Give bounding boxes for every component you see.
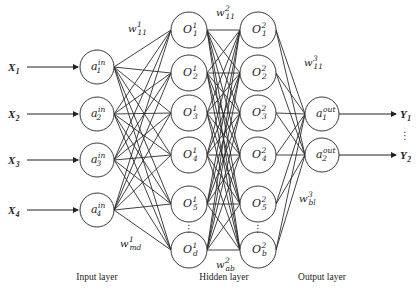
hidden-layer-title: Hidden layer <box>199 272 249 282</box>
neural-network-diagram: ain1ain2ain3ain4O11O12O13O14O15O1dO21O22… <box>0 0 420 293</box>
hidden2-node-o5-label: O25 <box>252 195 267 212</box>
weight-label-w1-11: w111 <box>128 20 147 37</box>
connection-line <box>114 67 171 113</box>
connection-line <box>114 73 171 160</box>
hidden2-node-o2-label: O22 <box>252 64 267 81</box>
weight-label-w2-ab: w2ab <box>216 256 235 273</box>
output-layer-title: Output layer <box>298 272 347 282</box>
input-label-x4: X4 <box>7 204 20 219</box>
hidden1-ellipsis: ⋮ <box>184 223 194 234</box>
weight-label-w3-bl: w3bl <box>299 190 316 207</box>
connections <box>114 30 305 250</box>
hidden1-node-od-label: O1d <box>183 241 198 258</box>
hidden1-node-o4-label: O14 <box>183 146 198 163</box>
weight-label-w2-11: w211 <box>216 4 235 21</box>
hidden2-node-ob-label: O2b <box>252 241 267 258</box>
hidden1-node-o3-label: O13 <box>183 104 198 121</box>
input-label-x2: X2 <box>7 108 20 123</box>
hidden1-node-o5-label: O15 <box>183 195 198 212</box>
connection-line <box>276 114 305 204</box>
hidden2-ellipsis: ⋮ <box>253 223 263 234</box>
connection-line <box>114 113 171 114</box>
hidden2-node-o1-label: O21 <box>252 21 267 38</box>
weight-label-w3-11: w311 <box>304 54 323 71</box>
connection-line <box>276 30 305 114</box>
hidden2-node-o3-label: O23 <box>252 104 267 121</box>
input-layer-title: Input layer <box>76 272 118 282</box>
hidden2-node-o4-label: O24 <box>252 146 267 163</box>
hidden1-node-o2-label: O12 <box>183 64 198 81</box>
output-label-y1: Y1 <box>400 108 411 123</box>
hidden1-node-o1-label: O11 <box>183 21 198 38</box>
output-ellipsis: ⋮ <box>400 130 410 141</box>
output-label-y2: Y2 <box>400 149 411 164</box>
connection-line <box>276 113 305 114</box>
connection-line <box>276 73 305 114</box>
input-label-x3: X3 <box>7 154 20 169</box>
input-label-x1: X1 <box>7 61 20 76</box>
weight-label-w1-md: w1md <box>120 235 142 252</box>
